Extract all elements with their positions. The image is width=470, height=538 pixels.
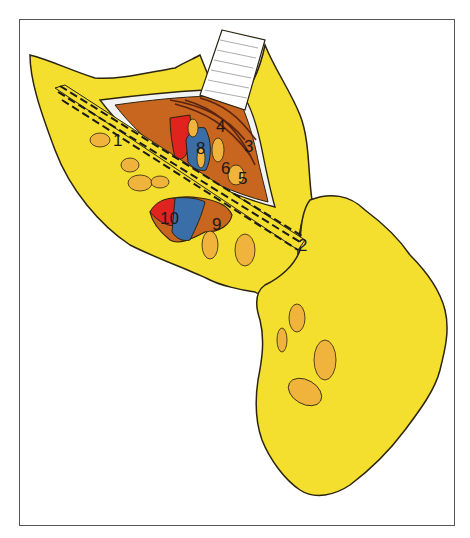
label-8: 8 <box>196 139 205 158</box>
label-5: 5 <box>238 169 247 188</box>
label-2: 2 <box>298 236 307 255</box>
label-6: 6 <box>221 159 230 178</box>
axillary-fat-flap <box>30 45 312 295</box>
label-1: 1 <box>113 131 122 150</box>
label-9: 9 <box>212 215 221 234</box>
lymph-node <box>188 119 198 137</box>
anatomical-illustration: 1 2 3 4 5 6 8 9 10 <box>0 0 470 538</box>
label-4: 4 <box>216 117 225 136</box>
label-10: 10 <box>160 209 179 228</box>
label-3: 3 <box>244 137 253 156</box>
